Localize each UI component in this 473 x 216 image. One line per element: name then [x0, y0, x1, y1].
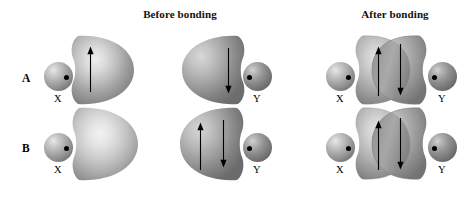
spin-arrow-up-b-after [374, 120, 383, 170]
spin-arrow-up-a-before-left [86, 46, 95, 92]
electron-dot-b-after-y [432, 146, 437, 151]
atom-label-a-after-x: X [336, 93, 344, 104]
electron-dot-a-after-y [432, 75, 437, 80]
atom-label-b-after-x: X [336, 164, 344, 175]
spin-arrow-down-a-after [396, 44, 405, 96]
spin-arrow-up-b-before-right [196, 122, 205, 170]
nucleus-sphere-b-after-y [428, 133, 457, 162]
nucleus-sphere-a-before-y [243, 62, 272, 91]
atom-label-a-after-y: Y [438, 93, 446, 104]
electron-dot-b-before-y [247, 146, 252, 151]
nucleus-sphere-a-after-y [428, 62, 457, 91]
figure-canvas: Before bonding After bonding A X [0, 0, 473, 216]
spin-arrow-down-b-before-right [219, 120, 228, 168]
atom-label-b-before-x: X [54, 164, 62, 175]
orbital-lobe-a-before-left [62, 34, 134, 106]
atom-label-a-before-y: Y [253, 93, 261, 104]
electron-dot-a-before-y [247, 75, 252, 80]
spin-arrow-down-b-after [396, 118, 405, 170]
nucleus-sphere-a-before-x [44, 62, 73, 91]
atom-label-b-before-y: Y [253, 164, 261, 175]
row-label-b: B [22, 142, 30, 154]
heading-after-bonding: After bonding [330, 8, 460, 20]
atom-label-b-after-y: Y [438, 164, 446, 175]
electron-dot-b-before-x [64, 146, 69, 151]
nucleus-sphere-b-before-x [44, 133, 73, 162]
electron-dot-a-before-x [64, 75, 69, 80]
heading-before-bonding: Before bonding [112, 8, 248, 20]
spin-arrow-down-a-before-right [224, 48, 233, 94]
orbital-lobe-b-before-left [62, 106, 138, 182]
spin-arrow-up-a-after [374, 46, 383, 96]
atom-label-a-before-x: X [54, 93, 62, 104]
orbital-overlap-b-after [348, 106, 434, 182]
nucleus-sphere-b-before-y [243, 133, 272, 162]
orbital-overlap-a-after [348, 34, 434, 106]
row-label-a: A [22, 72, 30, 84]
